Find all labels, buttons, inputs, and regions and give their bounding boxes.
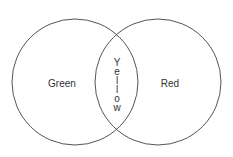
red-label: Red (161, 78, 179, 89)
venn-diagram: Green Red Y e l l o w (0, 0, 233, 157)
yellow-letter: w (112, 102, 121, 113)
green-label: Green (48, 78, 76, 89)
yellow-label: Y e l l o w (112, 57, 121, 113)
red-circle (95, 19, 221, 145)
